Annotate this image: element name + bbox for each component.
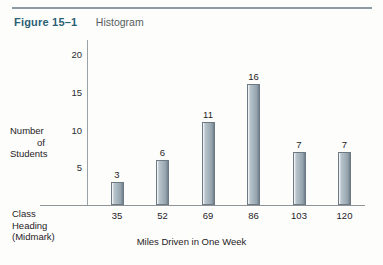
- bar-value-label: 6: [141, 148, 185, 158]
- bar-series: 36111677: [0, 30, 383, 206]
- x-axis-tick-52: 52: [141, 210, 185, 221]
- x-axis-tick-120: 120: [323, 210, 367, 221]
- bar: [202, 122, 215, 205]
- figure-number: Figure 15–1: [14, 16, 77, 28]
- bar-value-label: 16: [232, 72, 276, 82]
- bar-column: 11: [186, 110, 230, 205]
- figure-title: Histogram: [96, 16, 144, 28]
- x-axis-tick-35: 35: [95, 210, 139, 221]
- class-heading-line1: Class: [12, 208, 82, 220]
- bar-column: 3: [95, 170, 139, 205]
- bar-column: 6: [141, 148, 185, 205]
- bar: [156, 160, 169, 205]
- bar-column: 7: [277, 140, 321, 205]
- class-heading-line2: Heading: [12, 220, 82, 232]
- bar: [293, 152, 306, 205]
- bar-value-label: 7: [323, 140, 367, 150]
- chart-plot-area: 5101520 Number of Students 36111677 Clas…: [0, 30, 383, 230]
- x-axis-title: Miles Driven in One Week: [0, 236, 383, 247]
- figure-page: Figure 15–1 Histogram 5101520 Number of …: [0, 0, 383, 265]
- bar: [247, 84, 260, 205]
- bar-value-label: 3: [95, 170, 139, 180]
- x-axis-tick-69: 69: [186, 210, 230, 221]
- bar-value-label: 7: [277, 140, 321, 150]
- bar-value-label: 11: [186, 110, 230, 120]
- caption-rule: [12, 7, 372, 9]
- x-axis-tick-86: 86: [232, 210, 276, 221]
- x-axis-tick-103: 103: [277, 210, 321, 221]
- bar: [111, 182, 124, 205]
- bar-column: 16: [232, 72, 276, 205]
- bar-column: 7: [323, 140, 367, 205]
- bar: [338, 152, 351, 205]
- figure-caption: Figure 15–1 Histogram: [14, 12, 144, 30]
